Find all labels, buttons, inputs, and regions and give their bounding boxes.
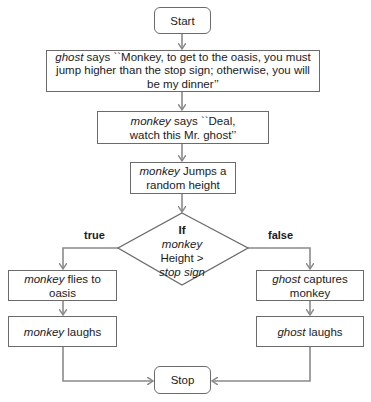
actor-monkey: monkey: [24, 326, 64, 338]
ghost-says-node: ghost says ``Monkey, to get to the oasis…: [46, 50, 320, 92]
decision-stop-sign: stop sign: [159, 266, 205, 278]
monkey-laughs-node: monkey laughs: [8, 316, 117, 347]
decision-condition: Height >: [142, 251, 222, 265]
ghost-laughs-text: laughs: [306, 326, 343, 338]
actor-monkey: monkey: [24, 273, 64, 285]
monkey-laughs-text: laughs: [64, 326, 101, 338]
actor-ghost: ghost: [277, 326, 305, 338]
flowchart: Start ghost says ``Monkey, to get to the…: [0, 0, 371, 402]
decision-actor: monkey: [162, 238, 202, 250]
ghost-captures-node: ghost captures monkey: [256, 270, 364, 301]
monkey-flies-node: monkey flies to oasis: [8, 270, 117, 301]
start-node: Start: [154, 7, 211, 34]
arrow-ghost-laughs-to-stop: [212, 347, 310, 381]
arrow-true-branch: [63, 248, 118, 269]
decision-keyword: If: [142, 223, 222, 237]
arrow-monkey-laughs-to-stop: [63, 347, 153, 381]
ghost-laughs-node: ghost laughs: [256, 316, 364, 347]
branch-false-label: false: [268, 229, 293, 241]
actor-ghost: ghost: [272, 273, 300, 285]
branch-true-label: true: [84, 229, 105, 241]
ghost-says-text: says ``Monkey, to get to the oasis, you …: [56, 51, 311, 90]
actor-ghost: ghost: [55, 51, 83, 63]
monkey-says-node: monkey says ``Deal, watch this Mr. ghost…: [97, 111, 269, 144]
arrow-false-branch: [248, 248, 310, 269]
stop-node: Stop: [154, 366, 211, 394]
actor-monkey: monkey: [140, 165, 180, 177]
decision-text: If monkey Height > stop sign: [142, 223, 222, 279]
stop-label: Stop: [171, 373, 195, 387]
start-label: Start: [170, 14, 194, 28]
actor-monkey: monkey: [131, 115, 171, 127]
monkey-jumps-node: monkey Jumps a random height: [130, 162, 236, 194]
